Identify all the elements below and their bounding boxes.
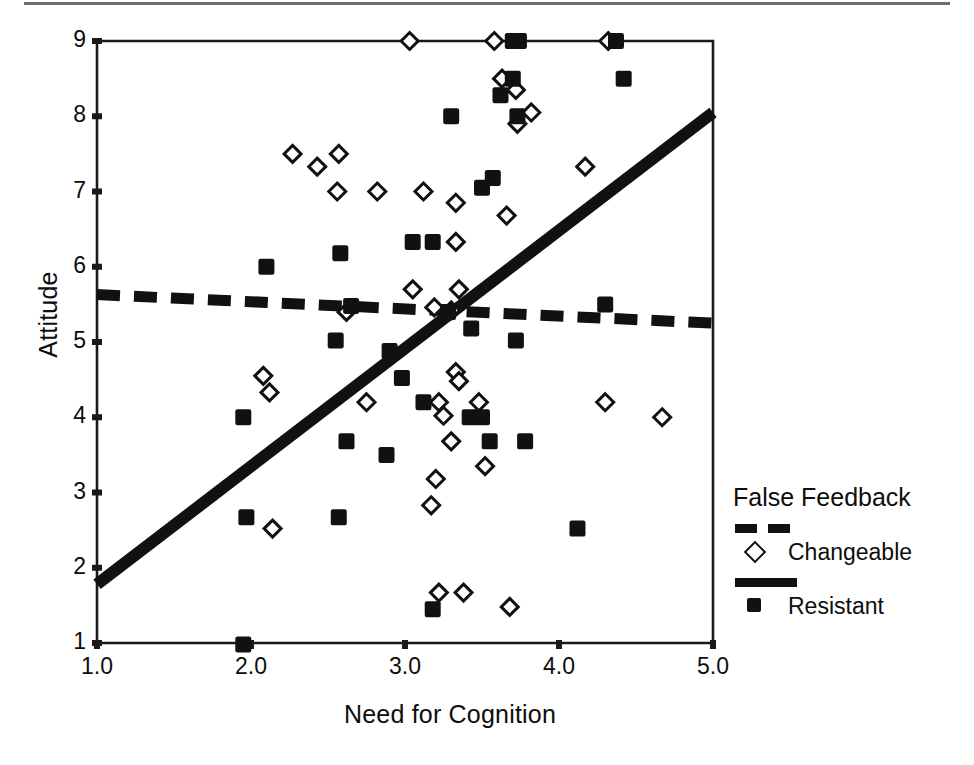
y-tick-label: 3 — [64, 478, 86, 505]
x-tick-label: 2.0 — [221, 653, 281, 680]
y-tick-label: 6 — [64, 252, 86, 279]
data-point-changeable — [447, 233, 464, 250]
data-point-resistant — [235, 409, 251, 425]
data-point-changeable — [401, 33, 418, 50]
data-point-resistant — [443, 108, 459, 124]
y-tick-label: 9 — [64, 26, 86, 53]
dashed-line-swatch-icon — [735, 524, 797, 533]
data-point-changeable — [404, 281, 421, 298]
data-point-resistant — [331, 509, 347, 525]
legend-entry-resistant: Resistant — [733, 576, 968, 630]
data-point-resistant — [616, 71, 632, 87]
data-point-resistant — [517, 433, 533, 449]
legend-label-changeable: Changeable — [788, 539, 912, 566]
legend-title: False Feedback — [733, 483, 968, 512]
figure-scatter-plot: 123456789 1.02.03.04.05.0 Attitude Need … — [0, 0, 974, 765]
data-point-resistant — [394, 370, 410, 386]
data-point-resistant — [482, 433, 498, 449]
data-point-resistant — [415, 394, 431, 410]
series-points-changeable — [255, 33, 671, 616]
data-point-changeable — [330, 145, 347, 162]
data-point-changeable — [309, 158, 326, 175]
data-point-resistant — [505, 71, 521, 87]
data-point-changeable — [470, 394, 487, 411]
fit-line-changeable — [97, 295, 713, 324]
y-tick-label: 8 — [64, 101, 86, 128]
data-point-changeable — [264, 520, 281, 537]
data-point-resistant — [440, 304, 456, 320]
data-point-resistant — [338, 433, 354, 449]
data-point-resistant — [258, 259, 274, 275]
y-tick-label: 4 — [64, 402, 86, 429]
fit-line-resistant — [97, 112, 713, 584]
data-point-changeable — [261, 384, 278, 401]
solid-line-swatch-icon — [735, 578, 797, 587]
series-points-resistant — [235, 33, 631, 653]
legend-label-resistant: Resistant — [788, 593, 884, 620]
x-axis-title: Need for Cognition — [344, 700, 556, 728]
data-point-resistant — [425, 601, 441, 617]
data-point-changeable — [477, 458, 494, 475]
data-point-changeable — [443, 433, 460, 450]
data-point-resistant — [343, 298, 359, 314]
legend: False Feedback Changeable Resistant — [733, 483, 968, 630]
legend-entry-changeable: Changeable — [733, 522, 968, 576]
data-point-resistant — [474, 180, 490, 196]
regression-lines — [97, 112, 713, 584]
data-point-changeable — [255, 367, 272, 384]
filled-square-marker-icon — [747, 598, 761, 612]
data-point-resistant — [569, 521, 585, 537]
data-point-changeable — [430, 584, 447, 601]
data-point-resistant — [492, 87, 508, 103]
x-tick-label: 4.0 — [529, 653, 589, 680]
open-diamond-marker-icon — [744, 541, 767, 564]
data-point-resistant — [238, 509, 254, 525]
data-point-changeable — [577, 158, 594, 175]
x-tick-label: 3.0 — [375, 653, 435, 680]
data-point-changeable — [455, 584, 472, 601]
data-point-changeable — [358, 394, 375, 411]
data-point-changeable — [329, 183, 346, 200]
y-axis-title-wrap: Attitude — [34, 245, 63, 385]
data-point-changeable — [284, 145, 301, 162]
data-point-changeable — [447, 194, 464, 211]
data-point-resistant — [597, 296, 613, 312]
data-point-resistant — [511, 33, 527, 49]
data-point-resistant — [235, 637, 251, 653]
y-tick-label: 1 — [64, 628, 86, 655]
data-point-changeable — [498, 207, 515, 224]
data-point-resistant — [328, 332, 344, 348]
data-point-resistant — [332, 245, 348, 261]
data-point-resistant — [425, 234, 441, 250]
data-point-changeable — [415, 183, 432, 200]
data-point-resistant — [509, 108, 525, 124]
chart-canvas — [0, 0, 974, 765]
data-point-resistant — [474, 409, 490, 425]
data-point-resistant — [405, 234, 421, 250]
data-point-changeable — [486, 33, 503, 50]
data-point-changeable — [501, 598, 518, 615]
data-point-resistant — [382, 343, 398, 359]
data-point-changeable — [423, 497, 440, 514]
x-tick-label: 1.0 — [67, 653, 127, 680]
y-tick-label: 5 — [64, 327, 86, 354]
data-point-changeable — [369, 183, 386, 200]
data-point-changeable — [427, 470, 444, 487]
data-point-resistant — [508, 332, 524, 348]
x-axis-title-wrap: Need for Cognition — [290, 700, 610, 729]
data-point-resistant — [463, 320, 479, 336]
y-tick-label: 7 — [64, 177, 86, 204]
data-point-changeable — [654, 409, 671, 426]
data-point-changeable — [597, 394, 614, 411]
data-point-resistant — [379, 447, 395, 463]
y-axis-title: Attitude — [34, 271, 62, 357]
data-point-resistant — [608, 33, 624, 49]
x-tick-label: 5.0 — [683, 653, 743, 680]
y-tick-label: 2 — [64, 553, 86, 580]
